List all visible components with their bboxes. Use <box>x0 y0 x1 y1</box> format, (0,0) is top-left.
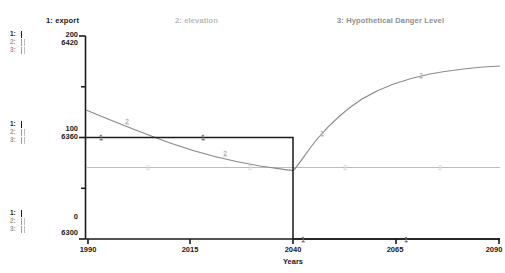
chart-canvas: 1: export 2: elevation 3: Hypothetical D… <box>0 0 505 273</box>
series-marker-2: 2 <box>419 72 423 79</box>
series-marker-1: 1 <box>301 236 305 243</box>
series-marker-2: 2 <box>125 118 129 125</box>
plot-area: 3 3 3 3 2 2 2 2 1 1 1 1 <box>0 0 505 273</box>
series-marker-2: 2 <box>223 150 227 157</box>
series-marker-3: 3 <box>343 164 347 171</box>
series-line-export <box>86 138 500 240</box>
series-marker-3: 3 <box>248 164 252 171</box>
series-marker-3: 3 <box>146 164 150 171</box>
series-marker-1: 1 <box>404 236 408 243</box>
series-marker-1: 1 <box>201 134 205 141</box>
series-marker-2: 2 <box>320 130 324 137</box>
series-marker-1: 1 <box>99 134 103 141</box>
series-marker-3: 3 <box>438 164 442 171</box>
